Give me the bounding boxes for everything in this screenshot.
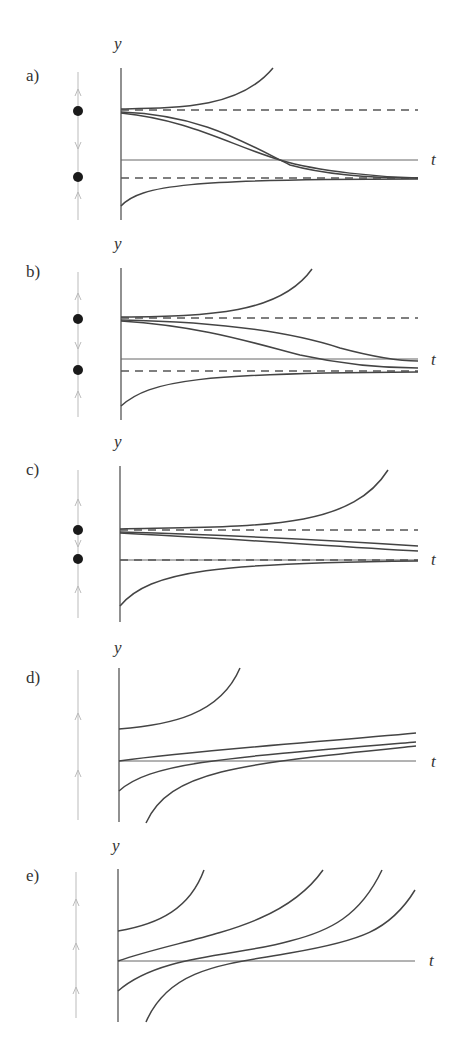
panel-e: e) y t [0,836,460,1046]
panel-d: d) y t [0,630,460,836]
panel-c-plot [0,430,460,640]
phase-line [75,670,81,820]
solution-curves [120,470,418,606]
solution-curves [121,269,418,406]
equilibrium-dot [73,554,83,564]
panel-b-plot [0,220,460,430]
panel-a: a) y t [0,0,460,220]
phase-line [75,272,81,417]
equilibrium-dot [73,314,83,324]
panel-e-plot [0,836,460,1046]
equilibrium-dot [73,525,83,535]
solution-curves [119,668,416,823]
phase-line [73,872,79,1018]
solution-curves [121,68,418,206]
solution-curves [118,870,415,1022]
phase-line [75,470,81,618]
phase-line [75,72,81,220]
panel-c: c) y t [0,430,460,640]
panel-a-plot [0,0,460,220]
panel-b: b) y t [0,220,460,430]
equilibrium-lines [120,530,418,560]
equilibrium-dot [73,172,83,182]
equilibrium-dot [73,106,83,116]
equilibrium-dot [73,365,83,375]
panel-d-plot [0,630,460,836]
